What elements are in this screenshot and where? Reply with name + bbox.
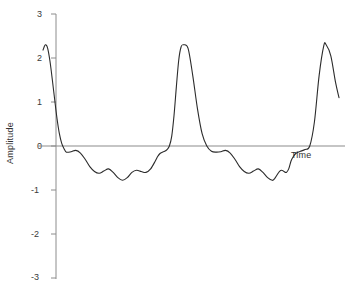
data-series-line xyxy=(43,43,339,181)
chart-svg xyxy=(0,0,353,293)
chart-container: 3 2 1 0 -1 -2 -3 Amplitude Time xyxy=(0,0,353,293)
